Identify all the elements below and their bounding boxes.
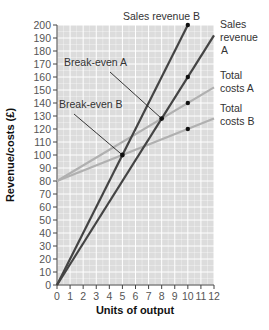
x-tick-label: 9	[172, 290, 178, 302]
marker-sales-revenue-a	[186, 75, 190, 79]
y-tick-label: 150	[33, 84, 51, 96]
x-tick-label: 6	[133, 290, 139, 302]
y-tick-label: 120	[33, 123, 51, 135]
y-tick-label: 130	[33, 110, 51, 122]
x-axis: 0123456789101112	[54, 285, 220, 302]
x-axis-title: Units of output	[96, 304, 175, 316]
y-tick-label: 30	[39, 240, 51, 252]
y-tick-label: 200	[33, 19, 51, 31]
x-tick-label: 5	[119, 290, 125, 302]
x-tick-label: 8	[159, 290, 165, 302]
x-tick-label: 7	[146, 290, 152, 302]
marker-total-costs-a	[186, 101, 190, 105]
break-even-point-break-even-a	[159, 116, 164, 121]
y-tick-label: 10	[39, 266, 51, 278]
label-sales-revenue-b: Sales revenue B	[123, 10, 200, 22]
label-sales-revenue-a-line1: Sales	[220, 18, 246, 30]
x-tick-label: 2	[80, 290, 86, 302]
break-even-point-break-even-b	[120, 153, 125, 158]
marker-total-costs-b	[186, 127, 190, 131]
y-tick-label: 110	[34, 136, 51, 148]
y-tick-label: 180	[33, 45, 51, 57]
y-axis: 0102030405060708090100110120130140150160…	[33, 19, 57, 291]
x-tick-label: 4	[106, 290, 112, 302]
x-tick-label: 10	[182, 290, 194, 302]
x-tick-label: 11	[195, 290, 206, 302]
label-sales-revenue-a-line3: A	[221, 44, 228, 56]
y-tick-label: 80	[39, 175, 51, 187]
y-tick-label: 90	[39, 162, 51, 174]
break-even-chart: 0102030405060708090100110120130140150160…	[0, 0, 269, 330]
x-tick-label: 1	[67, 290, 73, 302]
label-total-costs-a-line1: Total	[220, 69, 242, 81]
y-tick-label: 0	[45, 279, 51, 291]
y-tick-label: 70	[39, 188, 51, 200]
label-break-even-a: Break-even A	[64, 56, 127, 68]
y-tick-label: 60	[39, 201, 51, 213]
label-total-costs-b-line1: Total	[220, 102, 242, 114]
label-total-costs-a-line2: costs A	[220, 82, 254, 94]
marker-sales-revenue-b	[186, 23, 190, 27]
y-tick-label: 170	[33, 58, 51, 70]
y-tick-label: 140	[33, 97, 51, 109]
y-tick-label: 40	[39, 227, 51, 239]
y-tick-label: 160	[33, 71, 51, 83]
x-tick-label: 0	[54, 290, 60, 302]
label-sales-revenue-a-line2: revenue	[220, 31, 258, 43]
y-tick-label: 100	[33, 149, 51, 161]
x-tick-label: 12	[208, 290, 220, 302]
label-break-even-b: Break-even B	[59, 98, 123, 110]
y-tick-label: 20	[39, 253, 51, 265]
x-tick-label: 3	[93, 290, 99, 302]
y-tick-label: 190	[33, 32, 51, 44]
label-total-costs-b-line2: costs B	[220, 115, 254, 127]
y-axis-title: Revenue/costs (£)	[4, 108, 16, 202]
y-tick-label: 50	[39, 214, 51, 226]
